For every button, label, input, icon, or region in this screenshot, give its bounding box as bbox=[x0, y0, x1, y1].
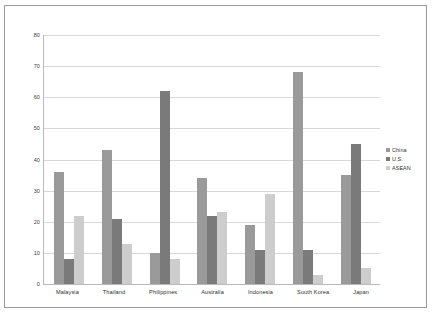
bar-us-indonesia bbox=[255, 250, 265, 284]
bar-us-philippines bbox=[160, 91, 170, 284]
legend-label: China bbox=[392, 147, 407, 153]
y-axis-tick-label: 20 bbox=[34, 219, 40, 225]
bar-asean-malaysia bbox=[74, 216, 84, 284]
bar-group bbox=[341, 35, 371, 284]
bar-asean-thailand bbox=[122, 244, 132, 284]
x-axis-label: Japan bbox=[353, 289, 369, 295]
bar-china-philippines bbox=[150, 253, 160, 284]
plot-area: 01020304050607080 bbox=[43, 35, 380, 285]
y-axis-tick-label: 50 bbox=[34, 125, 40, 131]
bar-us-thailand bbox=[112, 219, 122, 284]
bar-us-australia bbox=[207, 216, 217, 284]
bar-group bbox=[54, 35, 84, 284]
bar-us-malaysia bbox=[64, 259, 74, 284]
legend-swatch-icon bbox=[386, 157, 390, 161]
y-axis-tick-label: 30 bbox=[34, 188, 40, 194]
legend-label: U.S. bbox=[392, 156, 403, 162]
chart-figure: 01020304050607080 MalaysiaThailandPhilip… bbox=[4, 5, 427, 308]
legend-label: ASEAN bbox=[392, 165, 411, 171]
x-axis-label: Malaysia bbox=[56, 289, 79, 295]
legend-item-us[interactable]: U.S. bbox=[386, 156, 411, 162]
bar-group bbox=[102, 35, 132, 284]
legend-swatch-icon bbox=[386, 148, 390, 152]
bar-group bbox=[293, 35, 323, 284]
bar-china-malaysia bbox=[54, 172, 64, 284]
bar-group bbox=[150, 35, 180, 284]
bar-asean-japan bbox=[361, 268, 371, 284]
legend-item-china[interactable]: China bbox=[386, 147, 411, 153]
x-axis-label: Indonesia bbox=[248, 289, 273, 295]
bar-asean-indonesia bbox=[265, 194, 275, 284]
bar-asean-philippines bbox=[170, 259, 180, 284]
bar-china-thailand bbox=[102, 150, 112, 284]
bar-us-japan bbox=[351, 144, 361, 284]
x-axis-category-labels: MalaysiaThailandPhilippinesAustraliaIndo… bbox=[44, 289, 381, 295]
bar-asean-southkorea bbox=[313, 275, 323, 284]
bar-asean-australia bbox=[217, 212, 227, 284]
bar-china-southkorea bbox=[293, 72, 303, 284]
y-axis-tick-label: 70 bbox=[34, 63, 40, 69]
x-axis-label: South Korea bbox=[297, 289, 329, 295]
y-axis-tick-label: 60 bbox=[34, 94, 40, 100]
chart-legend: ChinaU.S.ASEAN bbox=[386, 147, 411, 171]
x-axis-label: Australia bbox=[201, 289, 224, 295]
bar-china-japan bbox=[341, 175, 351, 284]
bar-china-australia bbox=[197, 178, 207, 284]
legend-swatch-icon bbox=[386, 166, 390, 170]
y-axis-tick-label: 10 bbox=[34, 250, 40, 256]
y-axis-tick-label: 40 bbox=[34, 157, 40, 163]
legend-item-asean[interactable]: ASEAN bbox=[386, 165, 411, 171]
y-axis-tick-label: 80 bbox=[34, 32, 40, 38]
bar-us-southkorea bbox=[303, 250, 313, 284]
bar-group bbox=[245, 35, 275, 284]
x-axis-label: Philippines bbox=[149, 289, 177, 295]
bar-group bbox=[197, 35, 227, 284]
bar-china-indonesia bbox=[245, 225, 255, 284]
y-axis-tick-label: 0 bbox=[37, 281, 40, 287]
x-axis-label: Thailand bbox=[103, 289, 125, 295]
bar-groups bbox=[45, 35, 380, 284]
